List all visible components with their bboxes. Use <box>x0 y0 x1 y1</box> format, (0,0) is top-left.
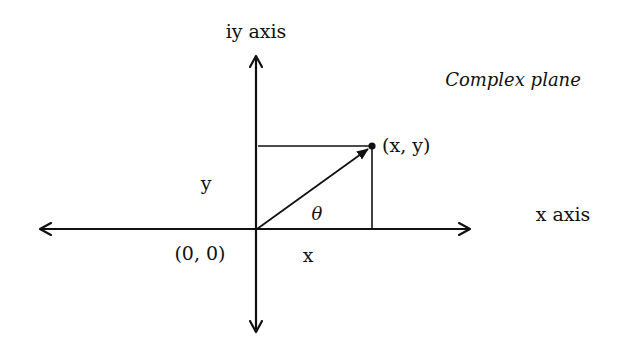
point-label: (x, y) <box>382 134 430 156</box>
point-marker <box>368 142 375 149</box>
x-component-label: x <box>303 244 314 266</box>
complex-plane-diagram: iy axis Complex plane (x, y) y θ x axis … <box>0 0 627 358</box>
y-axis-label: iy axis <box>226 20 287 42</box>
diagram-title: Complex plane <box>445 69 581 90</box>
y-component-label: y <box>200 172 212 194</box>
angle-label: θ <box>312 203 323 224</box>
x-axis-label: x axis <box>536 203 591 225</box>
origin-label: (0, 0) <box>174 242 225 264</box>
